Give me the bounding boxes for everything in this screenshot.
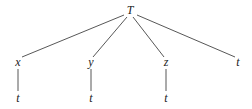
leaf-tx: t xyxy=(16,91,20,105)
edge-root-z xyxy=(133,17,164,57)
node-t4: t xyxy=(236,55,240,69)
edge-root-t xyxy=(137,15,235,57)
node-z: z xyxy=(163,55,169,69)
node-root: T xyxy=(127,3,135,17)
node-x: x xyxy=(14,55,21,69)
leaf-tz: t xyxy=(164,91,168,105)
edge-root-y xyxy=(93,17,127,57)
leaf-ty: t xyxy=(89,91,93,105)
edge-root-x xyxy=(22,15,124,57)
node-y: y xyxy=(87,55,94,69)
tree-diagram: T x y z t t t t xyxy=(0,0,252,109)
